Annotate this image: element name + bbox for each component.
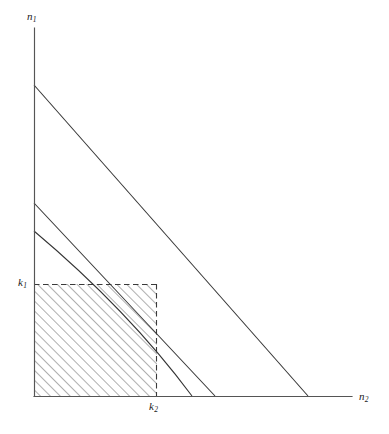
- x-axis-label-text: n: [359, 390, 365, 402]
- k2-label-subscript: 2: [154, 405, 158, 414]
- y-axis-label-text: n: [27, 10, 33, 22]
- x-axis-label: n2: [359, 391, 368, 402]
- feasible-region: [34, 284, 157, 396]
- plot-canvas: [0, 0, 389, 434]
- figure-container: n1 n2 k1 k2: [0, 0, 389, 434]
- y-axis-label-subscript: 1: [33, 15, 37, 24]
- k1-label-subscript: 1: [23, 281, 27, 290]
- y-axis-tick-label-k1: k1: [18, 277, 27, 288]
- x-axis-label-subscript: 2: [365, 395, 369, 404]
- y-axis-label: n1: [27, 11, 36, 22]
- region-hatch-fill: [34, 284, 157, 396]
- x-axis-tick-label-k2: k2: [149, 401, 158, 412]
